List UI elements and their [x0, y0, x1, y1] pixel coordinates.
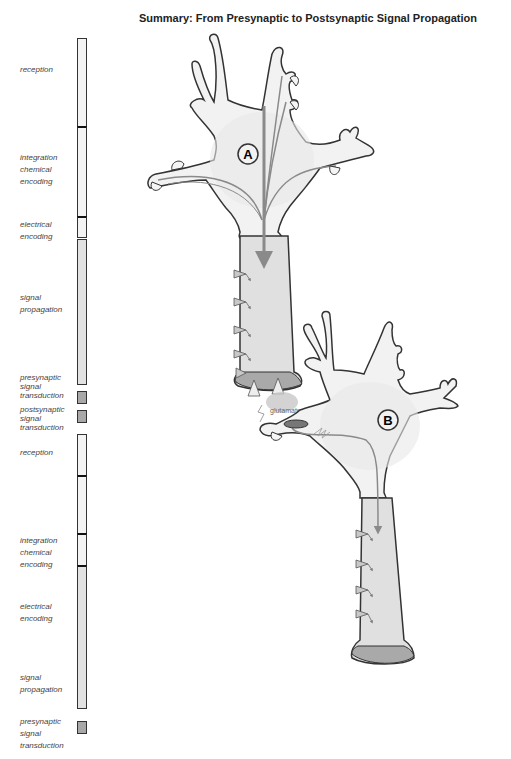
neuron-b-label: B: [383, 413, 392, 428]
neuron-a: A: [148, 34, 374, 396]
neuron-a-label: A: [243, 147, 253, 162]
neuron-illustration: A glutamate B: [0, 0, 511, 759]
